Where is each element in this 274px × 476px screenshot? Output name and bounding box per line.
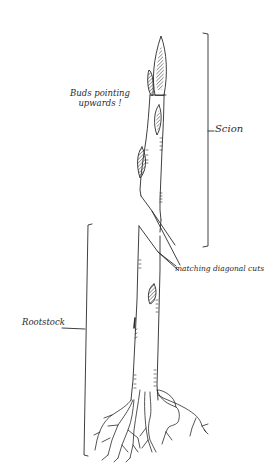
rootstock-bracket (62, 224, 92, 456)
scion-bud-upper (155, 105, 162, 135)
rootstock-label: Rootstock (22, 318, 65, 327)
buds-label-line1: Buds pointing (70, 88, 130, 98)
buds-label: Buds pointing upwards ! (70, 88, 130, 108)
rootstock-stem (131, 226, 178, 400)
scion-bracket (203, 33, 214, 247)
root-system (94, 390, 208, 462)
scion-bud-lower (138, 147, 146, 178)
side-bud-top (148, 70, 154, 95)
scion-label: Scion (215, 124, 243, 134)
graft-illustration (0, 0, 274, 476)
cuts-leaders (152, 211, 180, 266)
graft-diagram: Buds pointing upwards ! Scion matching d… (0, 0, 274, 476)
buds-label-line2: upwards ! (70, 98, 130, 108)
rootstock-bud (148, 284, 156, 304)
cuts-label: matching diagonal cuts (175, 265, 264, 273)
